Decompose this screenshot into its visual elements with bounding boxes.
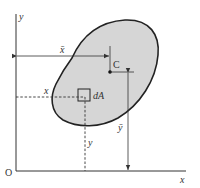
centroid-label: C [113, 59, 120, 70]
x-axis-label: x [179, 174, 185, 185]
element-label: dA [93, 90, 105, 101]
centroid-diagram: y x O x̄ C ȳ dA x y [0, 0, 200, 188]
x-bar-label: x̄ [59, 44, 65, 55]
origin-label: O [5, 167, 12, 178]
y-coord-label: y [87, 137, 93, 148]
area-shape [52, 20, 158, 126]
y-bar-label: ȳ [117, 122, 123, 133]
y-axis-label: y [18, 11, 24, 22]
x-coord-label: x [43, 85, 49, 96]
